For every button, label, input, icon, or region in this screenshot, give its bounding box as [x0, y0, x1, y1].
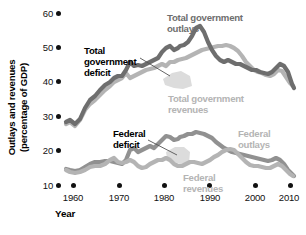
annotation-total-government-deficit: Total government deficit [84, 45, 136, 78]
annotation-federal-deficit-line2: deficit [113, 139, 140, 150]
annotation-federal-outlays-line2: outlays [238, 139, 270, 150]
annotation-federal-deficit-line1: Federal [113, 128, 145, 139]
annotation-federal-outlays: Federal outlays [238, 128, 270, 150]
annotation-federal-outlays-line1: Federal [238, 128, 270, 139]
annotation-federal-revenues: Federal revenues [183, 172, 223, 194]
annotation-federal-revenues-line1: Federal [183, 172, 215, 183]
annotation-total-deficit-line3: deficit [84, 67, 111, 78]
annotation-total-government-outlays: Total government outlays [167, 12, 243, 34]
chart-container: Outlays and revenues (percentage of GDP)… [0, 0, 306, 235]
annotation-total-revenues-line1: Total government [168, 93, 244, 104]
annotation-total-government-revenues: Total government revenues [168, 93, 244, 115]
annotation-federal-deficit: Federal deficit [113, 128, 145, 150]
annotation-total-deficit-line2: government [84, 56, 136, 67]
annotation-total-outlays-line2: outlays [167, 23, 199, 34]
annotation-federal-revenues-line2: revenues [183, 183, 223, 194]
annotation-total-revenues-line2: revenues [168, 104, 208, 115]
plot-area [0, 0, 306, 235]
total-deficit-wedge [163, 71, 192, 89]
annotation-total-outlays-line1: Total government [167, 12, 243, 23]
annotation-total-deficit-line1: Total [84, 45, 105, 56]
